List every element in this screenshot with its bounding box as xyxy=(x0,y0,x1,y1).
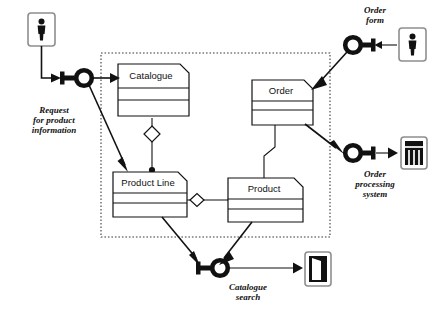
arrow-head-icon-6 xyxy=(329,140,344,154)
interface-bar-icon-3 xyxy=(371,147,376,160)
interface-request-label-line3: information xyxy=(32,125,77,135)
class-product-label: Product xyxy=(248,183,281,194)
relation-catalogue-productline xyxy=(144,118,160,173)
interface-order-processing-system[interactable] xyxy=(345,145,375,161)
actor-door[interactable] xyxy=(305,252,331,286)
interface-bar-icon-4 xyxy=(196,262,201,275)
class-product-line-label: Product Line xyxy=(121,177,174,188)
interface-catalogue-search-label-line2: search xyxy=(235,292,261,302)
interface-order-processing-label-line1: Order xyxy=(364,169,386,179)
connector-request-to-catalogue xyxy=(92,73,120,83)
arrow-head-icon-3 xyxy=(118,157,129,172)
interface-order-form-label-line2: form xyxy=(366,15,384,25)
diagram-canvas: Catalogue Order Product Line Product xyxy=(0,0,436,317)
connector-actor-to-order-form xyxy=(375,41,398,49)
uml-component-diagram: Catalogue Order Product Line Product xyxy=(0,0,436,317)
connector-processing-to-system-icon xyxy=(376,148,398,159)
lollipop-interface-icon xyxy=(76,70,92,86)
arrow-head-icon xyxy=(51,74,61,83)
lollipop-interface-icon-4 xyxy=(212,260,228,276)
connector-order-to-processing-system xyxy=(305,124,344,154)
actor-top-left[interactable] xyxy=(28,13,55,46)
interface-order-form[interactable] xyxy=(345,37,375,53)
interface-request-for-product-information[interactable] xyxy=(60,70,92,86)
connector-order-form-to-order xyxy=(311,52,347,90)
class-order-label: Order xyxy=(269,85,293,96)
connector-product-line-to-search xyxy=(162,217,200,266)
connector-product-to-search xyxy=(219,222,252,265)
interface-catalogue-search-label-line1: Catalogue xyxy=(229,282,267,292)
arrow-head-icon-7 xyxy=(388,148,398,159)
relation-productline-product xyxy=(186,194,234,207)
aggregation-diamond-icon-2 xyxy=(190,194,204,207)
actor-order-processing-system[interactable] xyxy=(401,137,427,169)
connector-actor-to-request-interface xyxy=(42,46,53,78)
interface-order-form-label-line1: Order xyxy=(364,5,386,15)
arrow-head-icon-5 xyxy=(311,76,327,90)
connector-search-to-door xyxy=(228,263,303,274)
class-catalogue[interactable]: Catalogue xyxy=(118,64,189,116)
aggregation-diamond-icon xyxy=(144,126,160,142)
class-order[interactable]: Order xyxy=(252,80,313,125)
class-product[interactable]: Product xyxy=(228,178,303,222)
lollipop-interface-icon-3 xyxy=(345,145,361,161)
interface-bar-icon xyxy=(60,72,65,85)
interface-request-label-line2: for product xyxy=(33,115,75,125)
interface-order-processing-label-line3: system xyxy=(362,189,388,199)
class-catalogue-label: Catalogue xyxy=(129,70,172,81)
arrow-head-icon-10 xyxy=(293,263,303,274)
class-product-line[interactable]: Product Line xyxy=(113,172,187,217)
lollipop-interface-icon-2 xyxy=(345,37,361,53)
interface-catalogue-search[interactable] xyxy=(196,260,228,276)
interface-order-processing-label-line2: processing xyxy=(354,179,395,189)
actor-top-right[interactable] xyxy=(399,28,426,61)
relation-order-product xyxy=(264,125,275,178)
interface-request-label-line1: Request xyxy=(38,105,69,115)
open-door-panel-icon xyxy=(312,258,321,280)
arrow-head-icon-4 xyxy=(375,41,383,49)
